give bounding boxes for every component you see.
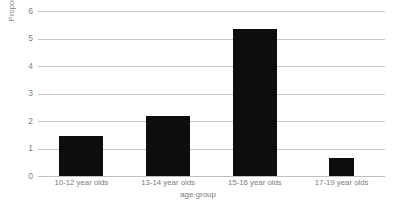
x-tick-label: 10-12 year olds: [38, 178, 125, 188]
gridline-0: [38, 176, 385, 177]
x-tick-label: 17-19 year olds: [298, 178, 385, 188]
x-tick-label: 13-14 year olds: [125, 178, 212, 188]
y-tick-label: 5: [3, 34, 33, 43]
y-tick-label: 2: [3, 117, 33, 126]
bar: [233, 29, 277, 176]
bar: [59, 136, 103, 176]
y-tick-label: 4: [3, 62, 33, 71]
bar-chart-figure: Proportion of use of 'like' 0123456 10-1…: [0, 0, 396, 210]
y-tick-label: 3: [3, 89, 33, 98]
x-axis-tick-labels: 10-12 year olds13-14 year olds15-16 year…: [38, 178, 385, 190]
y-tick-label: 1: [3, 144, 33, 153]
y-tick-label: 0: [3, 172, 33, 181]
plot-area: [38, 11, 385, 176]
x-tick-label: 15-16 year olds: [212, 178, 299, 188]
y-axis-tick-labels: 0123456: [0, 11, 33, 176]
gridline-4: [38, 66, 385, 67]
gridline-6: [38, 11, 385, 12]
gridline-5: [38, 39, 385, 40]
bar: [329, 158, 354, 176]
gridline-2: [38, 121, 385, 122]
bar: [146, 116, 190, 177]
y-tick-label: 6: [3, 7, 33, 16]
x-axis-title: age group: [0, 190, 396, 200]
gridline-3: [38, 94, 385, 95]
